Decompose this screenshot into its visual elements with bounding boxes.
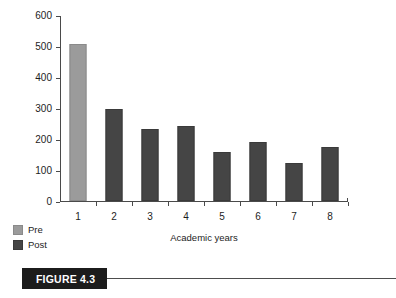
figure-4-3: Office referrals per 100 students 010020… (0, 0, 396, 298)
x-axis-tick (276, 202, 277, 206)
x-axis-tick (96, 202, 97, 206)
y-axis-tick-label: 300 (35, 104, 52, 114)
figure-caption: FIGURE 4.3 (0, 268, 396, 290)
legend-swatch-pre (13, 225, 23, 235)
x-axis-tick-label: 2 (111, 212, 117, 222)
x-axis-tick-label: 7 (291, 212, 297, 222)
bar-2 (106, 109, 123, 201)
y-axis-tick: 600 (56, 16, 60, 17)
legend-item-post: Post (13, 237, 103, 252)
x-axis-tick-label: 8 (327, 212, 333, 222)
legend-item-pre: Pre (13, 222, 103, 237)
plot-area: 010020030040050060012345678 (60, 16, 348, 202)
bar-1 (70, 44, 87, 201)
caption-label: FIGURE 4.3 (36, 273, 95, 285)
y-axis-tick: 0 (56, 202, 60, 203)
legend-label-post: Post (28, 240, 47, 250)
x-axis-tick (204, 202, 205, 206)
x-axis-tick-label: 1 (75, 212, 81, 222)
caption-box: FIGURE 4.3 (22, 268, 107, 289)
y-axis-tick-label: 600 (35, 11, 52, 21)
y-axis-tick-label: 400 (35, 73, 52, 83)
bar-4 (178, 126, 195, 201)
chart-legend: PrePost (13, 222, 103, 252)
bar-chart: Office referrals per 100 students 010020… (0, 0, 396, 222)
x-axis-tick-label: 6 (255, 212, 261, 222)
x-axis-tick-label: 3 (147, 212, 153, 222)
bar-8 (322, 147, 339, 201)
x-axis-tick (132, 202, 133, 206)
x-axis-label: Academic years (60, 232, 348, 243)
legend-swatch-post (13, 240, 23, 250)
x-axis-tick-label: 4 (183, 212, 189, 222)
y-axis-tick: 100 (56, 171, 60, 172)
y-axis-tick: 400 (56, 78, 60, 79)
x-axis-tick (240, 202, 241, 206)
legend-label-pre: Pre (28, 225, 43, 235)
x-axis-tick (348, 202, 349, 206)
y-axis-tick: 500 (56, 47, 60, 48)
y-axis-tick-label: 100 (35, 166, 52, 176)
y-axis-tick: 200 (56, 140, 60, 141)
y-axis-tick-label: 200 (35, 135, 52, 145)
y-axis-tick: 300 (56, 109, 60, 110)
x-axis-tick (168, 202, 169, 206)
x-axis-tick-label: 5 (219, 212, 225, 222)
y-axis-tick-label: 500 (35, 42, 52, 52)
bar-6 (250, 142, 267, 201)
y-axis-tick-label: 0 (46, 197, 52, 207)
y-axis-line (60, 16, 61, 202)
bar-5 (214, 152, 231, 201)
bar-3 (142, 129, 159, 201)
x-axis-tick (312, 202, 313, 206)
bar-7 (286, 163, 303, 201)
